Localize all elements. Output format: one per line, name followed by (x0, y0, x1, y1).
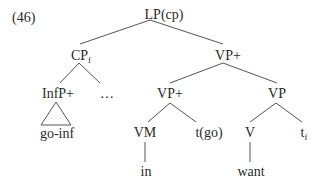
node-infp-plus: InfP+ (42, 86, 74, 102)
node-cp-f: CPf (71, 48, 91, 64)
node-want: want (237, 164, 264, 180)
edge-vpplus-vpplus (170, 63, 223, 83)
edge-cp-ellipsis (79, 63, 100, 83)
node-v: V (245, 125, 255, 141)
node-vp-plus-low: VP+ (157, 86, 183, 102)
edge-vp-v (250, 103, 276, 122)
node-t-f: tf (301, 125, 308, 141)
edge-vpplus-vm (148, 103, 170, 122)
node-in: in (141, 164, 152, 180)
node-vp-plus-top: VP+ (215, 48, 241, 64)
example-number: (46) (12, 10, 35, 26)
node-lp-cp: LP(cp) (145, 7, 184, 23)
edge-vp-tf (276, 103, 302, 122)
node-t-go: t(go) (195, 125, 222, 141)
triangle-infp (41, 102, 71, 125)
edge-vpplus-tgo (170, 103, 196, 122)
node-go-inf: go-inf (40, 126, 74, 142)
node-vp: VP (268, 86, 286, 102)
edge-lp-cp (80, 20, 150, 44)
edge-vpplus-vp (223, 63, 277, 83)
edge-lp-vpplus (150, 20, 223, 44)
node-vm: VM (134, 125, 157, 141)
node-ellipsis: … (100, 86, 114, 102)
edge-cp-infp (60, 63, 79, 83)
